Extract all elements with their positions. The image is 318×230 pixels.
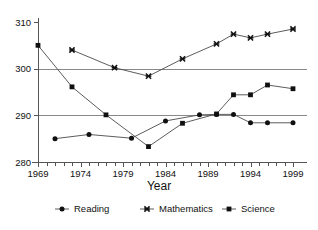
series-mathematics — [69, 26, 296, 78]
datapoint-reading-1994 — [248, 120, 253, 125]
datapoint-reading-1971 — [53, 136, 58, 141]
datapoint-science-1999 — [291, 86, 296, 91]
datapoint-mathematics-1996 — [265, 32, 271, 37]
datapoint-mathematics-1982 — [146, 74, 152, 79]
datapoint-reading-1984 — [163, 118, 168, 123]
datapoint-reading-1980 — [129, 136, 134, 141]
x-tick-label-1974: 1974 — [70, 168, 91, 179]
x-tick-label-1979: 1979 — [112, 168, 133, 179]
line-chart: 280290300310 196919741979198419891994199… — [0, 0, 318, 230]
datapoint-science-1969 — [36, 43, 41, 48]
datapoint-mathematics-1992 — [231, 32, 237, 37]
series-science — [36, 43, 296, 149]
axes — [32, 18, 307, 163]
datapoint-science-1990 — [214, 112, 219, 117]
x-tick-label-1999: 1999 — [282, 168, 303, 179]
x-tick-label-1989: 1989 — [197, 168, 218, 179]
datapoint-mathematics-1999 — [290, 26, 296, 31]
legend-marker-reading — [60, 207, 65, 212]
data-series — [36, 26, 296, 149]
datapoint-mathematics-1990 — [214, 41, 220, 46]
datapoint-science-1992 — [231, 92, 236, 97]
datapoint-mathematics-1994 — [248, 35, 254, 40]
y-tick-label-290: 290 — [15, 110, 31, 121]
x-tick-label-1994: 1994 — [240, 168, 261, 179]
legend-marker-science — [227, 207, 232, 212]
datapoint-reading-1975 — [87, 132, 92, 137]
chart-container: 280290300310 196919741979198419891994199… — [0, 0, 318, 230]
legend-item-science: Science — [222, 203, 275, 214]
datapoint-science-1973 — [70, 84, 75, 89]
datapoint-science-1996 — [265, 83, 270, 88]
legend-item-mathematics: Mathematics — [140, 203, 213, 214]
datapoint-science-1977 — [104, 112, 109, 117]
legend-label-mathematics: Mathematics — [159, 203, 213, 214]
legend-item-reading: Reading — [55, 203, 109, 214]
datapoint-reading-1992 — [231, 112, 236, 117]
y-axis-tick-labels: 280290300310 — [15, 17, 38, 168]
datapoint-mathematics-1973 — [69, 47, 75, 52]
datapoint-reading-1999 — [291, 120, 296, 125]
x-tick-label-1969: 1969 — [27, 168, 48, 179]
legend-marker-mathematics — [144, 206, 150, 211]
datapoint-mathematics-1986 — [180, 56, 186, 61]
datapoint-science-1986 — [180, 121, 185, 126]
datapoint-science-1994 — [248, 92, 253, 97]
series-line-science — [38, 45, 293, 146]
y-tick-label-280: 280 — [15, 157, 31, 168]
datapoint-reading-1988 — [197, 112, 202, 117]
datapoint-reading-1996 — [265, 120, 270, 125]
chart-legend: ReadingMathematicsScience — [55, 203, 275, 214]
x-axis-title: Year — [147, 179, 171, 193]
datapoint-science-1982 — [146, 144, 151, 149]
x-tick-label-1984: 1984 — [155, 168, 176, 179]
y-tick-label-300: 300 — [15, 63, 31, 74]
legend-label-science: Science — [241, 203, 275, 214]
legend-label-reading: Reading — [74, 203, 109, 214]
x-axis-ticks — [39, 163, 294, 168]
y-tick-label-310: 310 — [15, 17, 31, 28]
x-axis-tick-labels: 1969197419791984198919941999 — [27, 168, 303, 179]
